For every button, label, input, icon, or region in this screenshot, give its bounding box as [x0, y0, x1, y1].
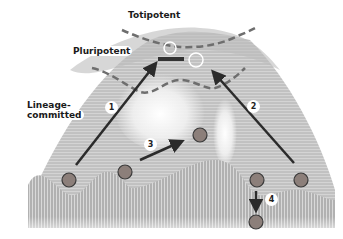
cell-right-valley-a	[250, 173, 264, 187]
step-badge-2: 2	[247, 100, 260, 113]
step-badge-3: 3	[144, 138, 157, 151]
cell-ridge-top	[193, 128, 207, 142]
label-lineage-committed-1: Lineage-	[25, 100, 73, 110]
cell-right-valley-b	[294, 173, 308, 187]
label-totipotent: Totipotent	[126, 10, 182, 20]
cell-mid-valley	[118, 165, 132, 179]
cell-left-valley	[62, 173, 76, 187]
step-badge-1: 1	[105, 101, 118, 114]
pluripotent-bar	[158, 57, 184, 61]
label-lineage-committed-2: committed	[25, 110, 84, 120]
label-pluripotent: Pluripotent	[71, 46, 132, 56]
cell-bottom	[249, 215, 263, 229]
step-badge-4: 4	[265, 193, 278, 206]
central-hill-highlight	[115, 70, 205, 150]
